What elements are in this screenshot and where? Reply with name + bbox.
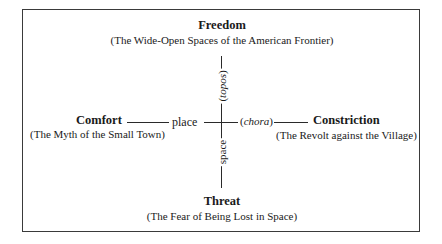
node-comfort-title: Comfort	[76, 114, 122, 127]
node-comfort-subtitle: (The Myth of the Small Town)	[30, 129, 165, 140]
horizontal-axis-line	[204, 122, 238, 123]
left-connector-line	[127, 122, 169, 123]
node-constriction-title: Constriction	[313, 114, 380, 127]
axis-label-place: place	[172, 116, 197, 128]
node-threat-title: Threat	[204, 195, 241, 208]
right-connector-line	[274, 122, 308, 123]
axis-label-chora: (chora)	[240, 116, 273, 127]
node-freedom-title: Freedom	[198, 19, 246, 32]
axis-label-topos: (topos)	[217, 68, 228, 103]
node-threat-subtitle: (The Fear of Being Lost in Space)	[147, 211, 297, 222]
node-constriction-subtitle: (The Revolt against the Village)	[276, 130, 417, 141]
node-freedom-subtitle: (The Wide-Open Spaces of the American Fr…	[111, 35, 334, 46]
axis-label-space: space	[217, 138, 228, 166]
